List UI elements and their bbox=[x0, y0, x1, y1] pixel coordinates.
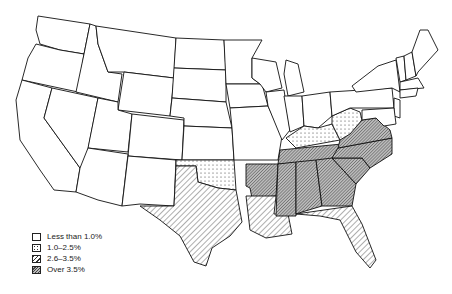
legend-label: Less than 1.0% bbox=[47, 231, 102, 242]
state-wyoming bbox=[118, 72, 174, 116]
state-mississippi bbox=[276, 162, 296, 216]
legend: Less than 1.0% 1.0–2.5% 2.6–3.5% Over 3.… bbox=[32, 231, 102, 275]
state-connecticut-ri bbox=[400, 88, 418, 98]
state-kansas bbox=[182, 126, 234, 160]
legend-label: 2.6–3.5% bbox=[47, 253, 81, 264]
state-arkansas bbox=[246, 164, 278, 198]
legend-item-over-3-5: Over 3.5% bbox=[32, 264, 102, 275]
state-florida bbox=[296, 206, 376, 268]
state-iowa bbox=[226, 84, 268, 108]
state-michigan bbox=[284, 60, 304, 96]
legend-item-2-6-to-3-5: 2.6–3.5% bbox=[32, 253, 102, 264]
legend-item-1-to-2-5: 1.0–2.5% bbox=[32, 242, 102, 253]
state-south-dakota bbox=[172, 68, 226, 102]
legend-label: Over 3.5% bbox=[47, 264, 85, 275]
blank-swatch-icon bbox=[32, 233, 41, 241]
state-ohio bbox=[302, 92, 332, 128]
dense-hatch-swatch-icon bbox=[32, 266, 41, 274]
diagonal-swatch-icon bbox=[32, 255, 41, 263]
state-north-dakota bbox=[174, 38, 226, 70]
legend-item-less-than-1: Less than 1.0% bbox=[32, 231, 102, 242]
state-new-york bbox=[352, 60, 400, 92]
state-colorado bbox=[128, 114, 184, 160]
state-montana bbox=[96, 26, 176, 78]
state-maine bbox=[412, 30, 438, 76]
legend-label: 1.0–2.5% bbox=[47, 242, 81, 253]
state-new-mexico bbox=[122, 156, 176, 206]
dots-swatch-icon bbox=[32, 244, 41, 252]
